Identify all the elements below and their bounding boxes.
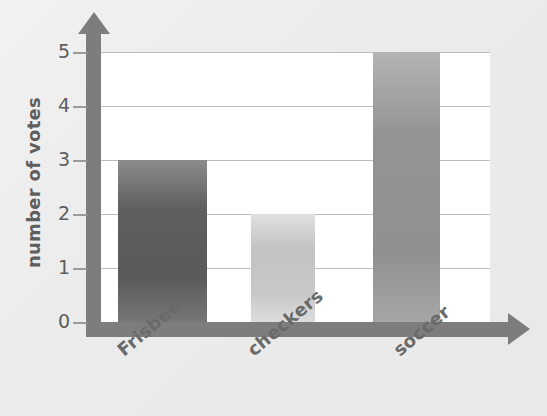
x-axis-arrow-icon: [508, 313, 530, 345]
y-axis-title: number of votes: [23, 93, 44, 273]
y-tick-mark-3: [73, 160, 87, 162]
bar-chart: 5 4 3 2 1 0 number of votes Frisbee chec…: [0, 0, 547, 416]
y-tick-label-3: 3: [48, 150, 70, 169]
y-tick-label-1: 1: [48, 258, 70, 277]
y-tick-label-5: 5: [48, 42, 70, 61]
plot-area: [101, 52, 490, 322]
y-axis-line: [86, 30, 101, 322]
y-tick-mark-1: [73, 268, 87, 270]
y-tick-mark-4: [73, 106, 87, 108]
bar-frisbee: [118, 160, 207, 322]
y-tick-label-2: 2: [48, 204, 70, 223]
y-tick-mark-5: [73, 52, 87, 54]
y-tick-label-0: 0: [48, 312, 70, 331]
y-axis-arrow-icon: [78, 12, 110, 34]
y-tick-mark-0: [73, 322, 87, 324]
y-tick-label-4: 4: [48, 96, 70, 115]
bar-soccer: [373, 52, 440, 322]
y-tick-mark-2: [73, 214, 87, 216]
